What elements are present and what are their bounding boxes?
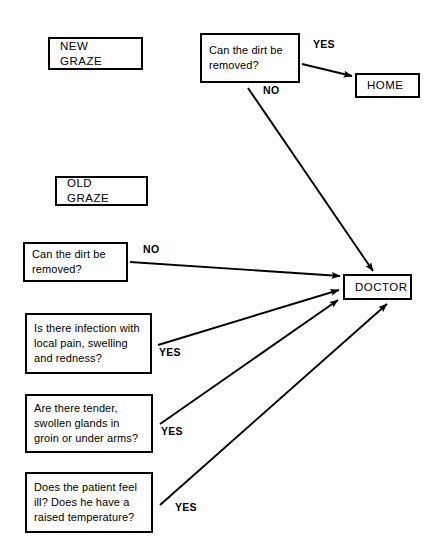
edge-label-label-unwell-yes: YES: [175, 501, 197, 513]
node-old-graze: OLD GRAZE: [55, 176, 148, 206]
edge-old-dirt-no: [130, 262, 340, 276]
node-label-new-graze: NEW GRAZE: [50, 39, 141, 69]
edge-unwell-yes: [160, 304, 387, 505]
edge-glands-yes: [160, 300, 338, 424]
edge-label-label-new-yes: YES: [313, 38, 335, 50]
edge-new-dirt-no: [248, 88, 373, 271]
node-label-unwell: Does the patient feel ill? Does he have …: [27, 480, 151, 525]
edge-infection-yes: [158, 290, 339, 345]
edge-label-label-old-no: NO: [143, 243, 159, 255]
node-label-home: HOME: [357, 78, 418, 93]
node-label-old-graze: OLD GRAZE: [57, 176, 146, 206]
edge-label-label-new-no: NO: [263, 84, 279, 96]
node-label-doctor: DOCTOR: [345, 280, 418, 295]
node-doctor: DOCTOR: [343, 274, 412, 300]
flowchart-canvas: NEW GRAZECan the dirt be removed?HOMEOLD…: [0, 0, 438, 559]
node-unwell: Does the patient feel ill? Does he have …: [25, 472, 153, 533]
node-new-graze: NEW GRAZE: [48, 37, 143, 70]
edge-label-label-infection-yes: YES: [159, 346, 181, 358]
node-infection: Is there infection with local pain, swel…: [25, 313, 152, 374]
node-old-dirt: Can the dirt be removed?: [23, 242, 128, 282]
edge-label-label-glands-yes: YES: [161, 425, 183, 437]
edge-new-dirt-yes: [302, 64, 352, 76]
node-glands: Are there tender, swollen glands in groi…: [25, 394, 153, 453]
node-new-dirt: Can the dirt be removed?: [200, 33, 300, 83]
node-label-glands: Are there tender, swollen glands in groi…: [27, 401, 151, 446]
node-label-old-dirt: Can the dirt be removed?: [25, 247, 126, 277]
node-home: HOME: [355, 73, 420, 98]
node-label-new-dirt: Can the dirt be removed?: [202, 43, 298, 73]
node-label-infection: Is there infection with local pain, swel…: [27, 321, 150, 366]
